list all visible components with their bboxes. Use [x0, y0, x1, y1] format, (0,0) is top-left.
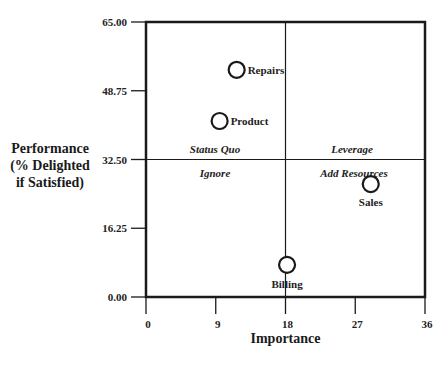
- x-tick-label: 27: [352, 318, 364, 330]
- point-label: Product: [231, 115, 269, 127]
- x-tick-label: 0: [145, 318, 151, 330]
- point-label: Repairs: [248, 64, 285, 76]
- point-marker: [363, 176, 379, 192]
- data-point-repairs: Repairs: [229, 62, 285, 78]
- data-point-product: Product: [212, 113, 269, 129]
- point-marker: [279, 257, 295, 273]
- x-axis: 09182736: [145, 297, 433, 330]
- y-tick-label: 32.50: [102, 154, 127, 166]
- y-tick-label: 65.00: [102, 16, 127, 28]
- x-tick-label: 18: [282, 318, 294, 330]
- y-axis-label: Performance (% Delighted if Satisfied): [0, 140, 100, 191]
- x-axis-label: Importance: [146, 331, 425, 347]
- y-tick-label: 48.75: [102, 85, 127, 97]
- y-axis-label-line: (% Delighted: [0, 157, 100, 174]
- x-tick-label: 9: [215, 318, 221, 330]
- quadrant-label-ignore: Ignore: [199, 167, 231, 179]
- quadrant-label-leverage: Leverage: [330, 143, 373, 155]
- x-tick-label: 36: [422, 318, 434, 330]
- data-point-sales: Sales: [359, 176, 384, 208]
- point-marker: [229, 62, 245, 78]
- point-label: Billing: [271, 278, 303, 290]
- quadrant-label-status-quo: Status Quo: [190, 143, 241, 155]
- y-tick-label: 0.00: [108, 291, 128, 303]
- quadrant-label-add-resources: Add Resources: [319, 167, 388, 179]
- data-point-billing: Billing: [271, 257, 303, 290]
- point-label: Sales: [359, 196, 384, 208]
- y-axis: 0.0016.2532.5048.7565.00: [102, 16, 146, 303]
- y-axis-label-line: Performance: [0, 140, 100, 157]
- y-axis-label-line: if Satisfied): [0, 174, 100, 191]
- y-tick-label: 16.25: [102, 222, 127, 234]
- point-marker: [212, 113, 228, 129]
